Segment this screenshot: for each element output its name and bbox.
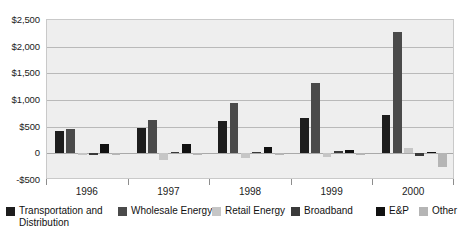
y-tick-label: $1,000 — [12, 94, 40, 105]
bar — [171, 152, 180, 153]
legend-swatch-icon — [419, 207, 428, 216]
y-tick-label: $2,500 — [12, 14, 40, 25]
bar — [275, 153, 284, 155]
category-label-2000: 2000 — [402, 186, 424, 197]
plot-area — [46, 19, 454, 179]
y-axis: $2,500$2,000$1,500$1,000$5000-$500 — [0, 0, 45, 195]
bar — [415, 153, 424, 156]
legend-swatch-icon — [376, 207, 385, 216]
y-tick-label: $2,000 — [12, 40, 40, 51]
legend-item-other[interactable]: Other — [419, 205, 457, 217]
bar — [393, 32, 402, 154]
bar — [218, 121, 227, 153]
bar — [382, 115, 391, 153]
category-label-1996: 1996 — [76, 186, 98, 197]
bar — [193, 153, 202, 155]
bar — [100, 144, 109, 154]
legend-swatch-icon — [118, 207, 127, 216]
bar — [241, 153, 250, 158]
category-label-1997: 1997 — [157, 186, 179, 197]
bar — [159, 153, 168, 160]
legend-swatch-icon — [212, 207, 221, 216]
y-tick-label: 0 — [35, 147, 40, 158]
legend-item-transportation-and-distribution[interactable]: Transportation and Distribution — [6, 205, 111, 229]
y-tick-label: $500 — [19, 120, 40, 131]
legend-label: Transportation and Distribution — [19, 205, 111, 229]
bar — [334, 151, 343, 153]
bar — [78, 153, 87, 154]
legend-label: Retail Energy — [225, 205, 285, 217]
category-ticks — [46, 179, 454, 186]
category-axis-labels: 19961997199819992000 — [46, 186, 454, 202]
bar-chart: $2,500$2,000$1,500$1,000$5000-$500 19961… — [0, 0, 458, 237]
category-label-1999: 1999 — [320, 186, 342, 197]
y-tick-label: -$500 — [16, 174, 40, 185]
legend-item-wholesale-energy[interactable]: Wholesale Energy — [118, 205, 212, 217]
legend-item-retail-energy[interactable]: Retail Energy — [212, 205, 285, 217]
legend-label: E&P — [389, 205, 409, 217]
category-tick — [291, 179, 292, 185]
legend-swatch-icon — [291, 207, 300, 216]
legend-label: Other — [432, 205, 457, 217]
bar — [66, 129, 75, 153]
legend-label: Wholesale Energy — [131, 205, 212, 217]
bar — [137, 128, 146, 154]
bar — [323, 153, 332, 156]
category-tick — [453, 179, 454, 185]
legend-item-e-p[interactable]: E&P — [376, 205, 409, 217]
chart-legend: Transportation and DistributionWholesale… — [6, 205, 456, 235]
legend-label: Broadband — [304, 205, 353, 217]
legend-item-broadband[interactable]: Broadband — [291, 205, 353, 217]
bar — [356, 153, 365, 154]
bar — [404, 148, 413, 153]
category-tick — [46, 179, 47, 185]
bar — [264, 147, 273, 153]
bar — [311, 83, 320, 153]
bar — [89, 153, 98, 154]
bar — [300, 118, 309, 153]
bar — [438, 153, 447, 166]
bar — [55, 131, 64, 153]
legend-swatch-icon — [6, 207, 15, 216]
bar — [345, 150, 354, 154]
category-tick — [209, 179, 210, 185]
y-tick-label: $1,500 — [12, 67, 40, 78]
category-tick — [372, 179, 373, 185]
bar — [148, 120, 157, 153]
bar — [112, 153, 121, 154]
bars-layer — [47, 20, 453, 178]
bar — [427, 152, 436, 154]
bar — [230, 103, 239, 154]
bar — [252, 152, 261, 154]
bar — [182, 144, 191, 153]
category-label-1998: 1998 — [239, 186, 261, 197]
category-tick — [128, 179, 129, 185]
